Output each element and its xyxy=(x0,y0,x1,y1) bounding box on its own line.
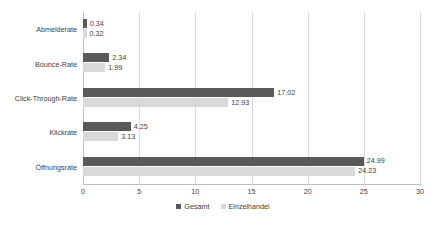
bar-group-gesamt[interactable]: 2.34 xyxy=(83,53,126,62)
x-axis-tick-labels: 051015202530 xyxy=(83,187,420,199)
bar[interactable] xyxy=(83,98,228,107)
bar-chart: Abmelderate0.340.32Bounce-Rate2.341.99Cl… xyxy=(0,0,446,226)
x-tick-label: 15 xyxy=(248,187,256,196)
bar[interactable] xyxy=(83,19,87,28)
legend-label: Gesamt xyxy=(184,203,209,210)
bar-group-einzelhandel[interactable]: 3.13 xyxy=(83,132,135,141)
bar-group-einzelhandel[interactable]: 24.23 xyxy=(83,167,376,176)
legend-swatch-icon xyxy=(176,204,181,209)
category-row: Abmelderate0.340.32 xyxy=(83,12,420,46)
category-label: Click-Through-Rate xyxy=(15,93,77,102)
x-tick-label: 20 xyxy=(304,187,312,196)
bar-group-gesamt[interactable]: 0.34 xyxy=(83,19,104,28)
bar[interactable] xyxy=(83,122,131,131)
bar-value-label: 1.99 xyxy=(108,64,122,71)
legend-label: Einzelhandel xyxy=(229,203,270,210)
x-tick-label: 30 xyxy=(416,187,424,196)
category-row: Klickrate4.253.13 xyxy=(83,115,420,149)
bar-group-einzelhandel[interactable]: 1.99 xyxy=(83,63,122,72)
x-tick-label: 25 xyxy=(360,187,368,196)
x-axis-line xyxy=(83,184,421,185)
bar-value-label: 17.02 xyxy=(277,89,295,96)
bar-value-label: 24.23 xyxy=(358,167,376,174)
bar[interactable] xyxy=(83,167,355,176)
legend-item-einzelhandel[interactable]: Einzelhandel xyxy=(221,203,270,210)
bar-group-einzelhandel[interactable]: 0.32 xyxy=(83,29,104,38)
bar[interactable] xyxy=(83,29,87,38)
bar-group-gesamt[interactable]: 24.99 xyxy=(83,157,385,166)
category-label: Bounce-Rate xyxy=(35,59,77,68)
bar-value-label: 0.32 xyxy=(90,30,104,37)
bar-value-label: 12.93 xyxy=(231,99,249,106)
category-label: Öffnungsrate xyxy=(36,162,77,171)
bar-group-gesamt[interactable]: 4.25 xyxy=(83,122,148,131)
x-tick-label: 0 xyxy=(81,187,85,196)
category-row: Öffnungsrate24.9924.23 xyxy=(83,150,420,184)
category-label: Klickrate xyxy=(49,128,77,137)
bar[interactable] xyxy=(83,132,118,141)
bar[interactable] xyxy=(83,63,105,72)
bar[interactable] xyxy=(83,88,274,97)
bar-group-gesamt[interactable]: 17.02 xyxy=(83,88,295,97)
category-row: Click-Through-Rate17.0212.93 xyxy=(83,81,420,115)
plot-area: Abmelderate0.340.32Bounce-Rate2.341.99Cl… xyxy=(83,12,420,184)
bar-value-label: 4.25 xyxy=(134,123,148,130)
x-tick-label: 10 xyxy=(191,187,199,196)
chart-legend: GesamtEinzelhandel xyxy=(0,203,446,210)
legend-item-gesamt[interactable]: Gesamt xyxy=(176,203,209,210)
category-label: Abmelderate xyxy=(36,25,77,34)
bar-group-einzelhandel[interactable]: 12.93 xyxy=(83,98,249,107)
bar-value-label: 2.34 xyxy=(112,54,126,61)
bar-value-label: 24.99 xyxy=(367,157,385,164)
bar[interactable] xyxy=(83,157,364,166)
legend-swatch-icon xyxy=(221,204,226,209)
x-tick-label: 5 xyxy=(137,187,141,196)
bar-value-label: 0.34 xyxy=(90,20,104,27)
bar-value-label: 3.13 xyxy=(121,133,135,140)
category-row: Bounce-Rate2.341.99 xyxy=(83,46,420,80)
gridline-30 xyxy=(420,12,421,184)
bar[interactable] xyxy=(83,53,109,62)
